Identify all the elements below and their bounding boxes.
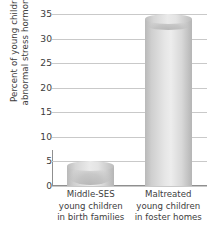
x-category-label-line: young children xyxy=(126,201,212,213)
y-axis-tick-labels: 05101520253035 xyxy=(30,0,52,192)
y-tick-label: 20 xyxy=(40,83,52,92)
plot-area xyxy=(52,14,207,186)
x-category-label-line: young children xyxy=(48,201,134,213)
y-tick-label: 30 xyxy=(40,34,52,43)
y-tick-label: 10 xyxy=(40,132,52,141)
bar-chart: Percent of young children with abnormal … xyxy=(0,0,212,233)
bar xyxy=(67,166,114,186)
x-category-label: Maltreatedyoung childrenin foster homes xyxy=(126,189,212,224)
gridline xyxy=(52,186,207,187)
x-category-label-line: in birth families xyxy=(48,212,134,224)
y-axis-line xyxy=(52,150,53,186)
bar-top-cap xyxy=(145,14,192,24)
x-category-label-line: Maltreated xyxy=(126,189,212,201)
x-axis-category-labels: Middle-SESyoung childrenin birth familie… xyxy=(52,189,207,233)
y-axis-title-line-1: Percent of young children with xyxy=(9,0,20,105)
y-tick-label: 35 xyxy=(40,9,52,18)
x-category-label: Middle-SESyoung childrenin birth familie… xyxy=(48,189,134,224)
y-tick-label: 25 xyxy=(40,59,52,68)
x-category-label-line: Middle-SES xyxy=(48,189,134,201)
y-tick-label: 15 xyxy=(40,108,52,117)
bar xyxy=(145,19,192,186)
x-category-label-line: in foster homes xyxy=(126,212,212,224)
